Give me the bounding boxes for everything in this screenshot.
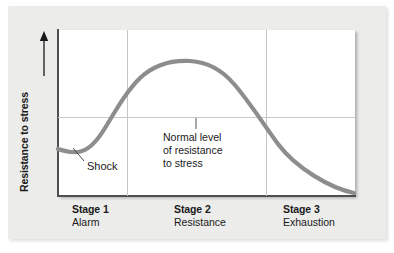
y-axis-label: Resistance to stress xyxy=(18,77,30,207)
stage-1-subtitle: Alarm xyxy=(72,216,109,228)
annotation-shock: Shock xyxy=(87,160,118,172)
annotation-normal-level-line1: Normal level xyxy=(163,131,223,144)
stage-1-title: Stage 1 xyxy=(72,203,109,215)
stage-2-subtitle: Resistance xyxy=(174,216,226,228)
stage-label-1: Stage 1 Alarm xyxy=(72,203,109,228)
annotation-normal-level-line3: to stress xyxy=(163,157,223,170)
up-arrow-icon xyxy=(38,30,50,76)
stage-3-title: Stage 3 xyxy=(283,203,335,215)
resistance-curve xyxy=(58,61,354,193)
stage-label-2: Stage 2 Resistance xyxy=(174,203,226,228)
stage-3-subtitle: Exhaustion xyxy=(283,216,335,228)
stage-2-title: Stage 2 xyxy=(174,203,226,215)
annotation-normal-level: Normal level of resistance to stress xyxy=(163,131,223,170)
stage-label-3: Stage 3 Exhaustion xyxy=(283,203,335,228)
figure-container: Resistance to stress Shock Normal level … xyxy=(0,0,394,253)
annotation-normal-level-line2: of resistance xyxy=(163,144,223,157)
